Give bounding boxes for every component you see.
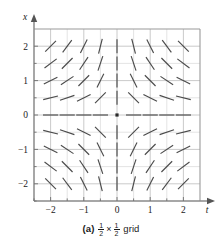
y-axis-label: x (22, 12, 28, 22)
x-tick-label: 1 (148, 205, 153, 215)
slope-field-figure: −2−1012−2−1012xt (a) 12×12 grid (0, 0, 222, 248)
y-tick-label: 2 (23, 42, 28, 52)
fraction-one-half-first: 12 (98, 222, 104, 237)
origin-dot (115, 113, 118, 116)
fraction-denominator: 2 (98, 229, 104, 237)
y-tick-label: 0 (23, 110, 28, 120)
fraction-denominator: 2 (114, 229, 120, 237)
y-tick-label: 1 (23, 76, 28, 86)
y-tick-label: −2 (18, 179, 28, 189)
x-tick-label: 2 (181, 205, 186, 215)
x-tick-label: −2 (46, 205, 56, 215)
x-tick-label: 0 (115, 205, 120, 215)
axis-lines (31, 14, 215, 204)
slope-field-plot: −2−1012−2−1012xt (0, 0, 222, 248)
fraction-numerator: 1 (98, 222, 104, 229)
fraction-numerator: 1 (114, 222, 120, 229)
fraction-one-half-second: 12 (114, 222, 120, 237)
y-tick-label: −1 (18, 145, 28, 155)
figure-caption: (a) 12×12 grid (0, 222, 222, 237)
caption-text: grid (123, 223, 139, 234)
x-axis-label: t (206, 205, 209, 215)
x-tick-label: −1 (79, 205, 89, 215)
caption-label: (a) (82, 223, 94, 234)
multiplication-sign: × (106, 224, 111, 234)
tick-marks (34, 46, 183, 201)
